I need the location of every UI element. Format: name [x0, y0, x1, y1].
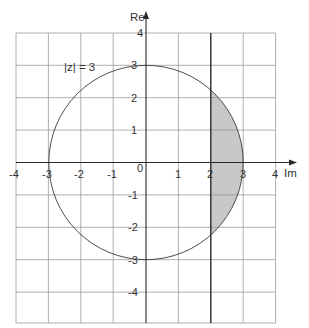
y-tick-label: 1 — [131, 124, 137, 136]
im-axis-arrow-icon — [289, 160, 297, 166]
y-tick-label: -4 — [128, 286, 138, 298]
im-axis-label: Im — [284, 167, 297, 179]
x-tick-label: 1 — [175, 168, 181, 180]
y-tick-label: 4 — [137, 27, 143, 39]
origin-label: 0 — [137, 162, 143, 174]
x-tick-label: -4 — [9, 168, 19, 180]
y-tick-label: 3 — [131, 59, 137, 71]
x-tick-label: 2 — [207, 168, 213, 180]
y-tick-label: 2 — [131, 92, 137, 104]
circle-label: |z| = 3 — [64, 61, 95, 73]
x-tick-label: -3 — [42, 168, 52, 180]
x-tick-label: 3 — [240, 168, 246, 180]
y-tick-label: -1 — [128, 189, 138, 201]
y-tick-label: -2 — [128, 221, 138, 233]
re-axis-label: Re — [130, 11, 145, 23]
complex-plane-diagram: Re Im 0 -4 -3 -2 -1 1 2 3 4 4 3 2 1 -1 -… — [0, 0, 309, 328]
x-tick-label: 4 — [272, 168, 278, 180]
x-tick-label: -1 — [107, 168, 117, 180]
x-tick-label: -2 — [74, 168, 84, 180]
y-tick-label: -3 — [128, 254, 138, 266]
